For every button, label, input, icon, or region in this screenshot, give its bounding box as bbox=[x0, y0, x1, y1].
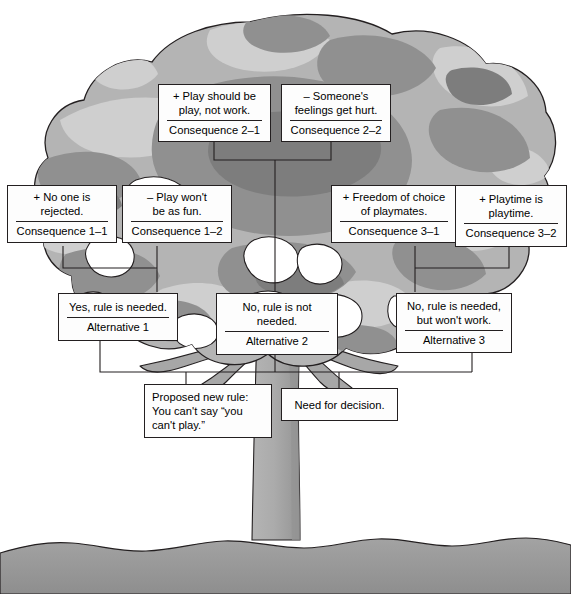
node-line-1: Proposed new rule: bbox=[152, 390, 264, 404]
figure-canvas: + Play should be play, not work. Consequ… bbox=[0, 0, 571, 594]
node-line-2: be as fun. bbox=[129, 204, 225, 218]
node-line-2: You can't say “you bbox=[152, 404, 264, 418]
node-label: Consequence 2–1 bbox=[159, 121, 270, 141]
node-alternative-2[interactable]: No, rule is not needed. Alternative 2 bbox=[216, 293, 338, 355]
node-line-1: + No one is bbox=[14, 190, 110, 204]
node-consequence-2-1[interactable]: + Play should be play, not work. Consequ… bbox=[158, 84, 271, 142]
node-line-2: rejected. bbox=[14, 204, 110, 218]
node-line-1: No, rule is not needed. bbox=[223, 300, 331, 328]
node-line-1: – Someone's bbox=[288, 89, 384, 103]
node-label: Alternative 3 bbox=[397, 331, 511, 352]
node-consequence-2-2[interactable]: – Someone's feelings get hurt. Consequen… bbox=[281, 84, 391, 142]
node-line-1: Yes, rule is needed. bbox=[65, 300, 171, 314]
node-consequence-3-1[interactable]: + Freedom of choice of playmates. Conseq… bbox=[331, 185, 457, 243]
node-proposed-new-rule[interactable]: Proposed new rule: You can't say “you ca… bbox=[144, 384, 272, 438]
node-line-2: of playmates. bbox=[338, 204, 450, 218]
node-alternative-1[interactable]: Yes, rule is needed. Alternative 1 bbox=[58, 293, 178, 341]
node-label: Alternative 2 bbox=[217, 332, 337, 354]
node-need-for-decision[interactable]: Need for decision. bbox=[281, 388, 398, 421]
node-label: Consequence 2–2 bbox=[282, 121, 390, 141]
node-line-1: + Freedom of choice bbox=[338, 190, 450, 204]
node-consequence-1-1[interactable]: + No one is rejected. Consequence 1–1 bbox=[7, 185, 117, 243]
ground bbox=[0, 538, 571, 594]
node-consequence-3-2[interactable]: + Playtime is playtime. Consequence 3–2 bbox=[455, 185, 567, 247]
node-line-1: No, rule is needed, bbox=[403, 299, 505, 313]
node-alternative-3[interactable]: No, rule is needed, but won't work. Alte… bbox=[396, 293, 512, 353]
node-line-2: play, not work. bbox=[165, 103, 264, 117]
node-line-2: feelings get hurt. bbox=[288, 103, 384, 117]
node-consequence-1-2[interactable]: – Play won't be as fun. Consequence 1–2 bbox=[122, 185, 232, 243]
node-label: Consequence 1–1 bbox=[8, 222, 116, 242]
node-label: Consequence 3–2 bbox=[456, 224, 566, 246]
node-label: Consequence 3–1 bbox=[332, 222, 456, 242]
node-line-3: can't play.” bbox=[152, 418, 264, 432]
node-line-1: Need for decision. bbox=[294, 398, 384, 412]
node-line-1: + Play should be bbox=[165, 89, 264, 103]
node-line-2: but won't work. bbox=[403, 313, 505, 327]
node-label: Alternative 1 bbox=[59, 318, 177, 340]
node-line-1: + Playtime is playtime. bbox=[462, 192, 560, 220]
node-line-1: – Play won't bbox=[129, 190, 225, 204]
node-label: Consequence 1–2 bbox=[123, 222, 231, 242]
